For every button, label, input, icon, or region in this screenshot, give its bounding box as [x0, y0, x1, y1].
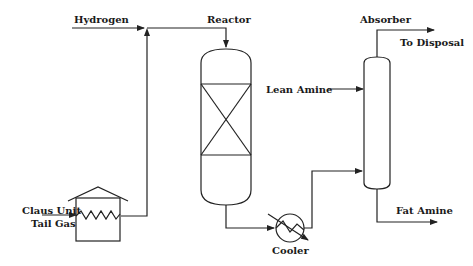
cooler-label: Cooler [272, 245, 309, 256]
hydrogen-label: Hydrogen [74, 14, 130, 25]
fat-amine-label: Fat Amine [396, 205, 453, 216]
heater-outlet-stream [121, 28, 226, 216]
to-disposal-label: To Disposal [400, 37, 464, 48]
hydrogen-stream: Hydrogen [72, 14, 144, 28]
cooler: Cooler [268, 214, 309, 256]
reactor-label: Reactor [207, 14, 252, 25]
tail-gas-label: Tail Gas [31, 218, 76, 229]
lean-amine-label: Lean Amine [266, 84, 332, 95]
cooler-outlet-stream [304, 171, 362, 228]
reactor-outlet-stream [226, 205, 274, 228]
absorber-label: Absorber [359, 14, 412, 25]
claus-unit-label: Claus Unit [22, 205, 81, 216]
process-flow-diagram: Hydrogen Reactor Cooler Absorber To Disp… [0, 0, 473, 266]
